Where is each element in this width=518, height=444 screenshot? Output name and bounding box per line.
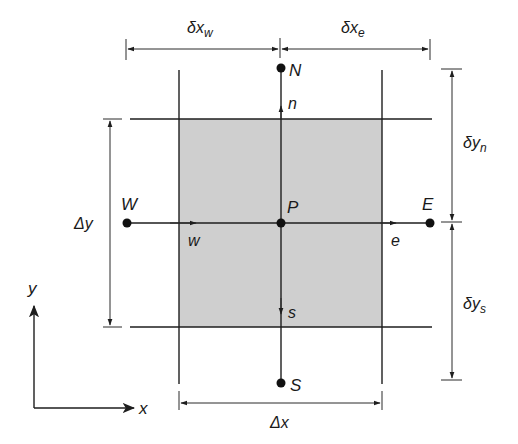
x-axis-label: x [138,399,148,418]
face-label-n: n [288,95,297,112]
face-label-w: w [188,232,201,249]
node-label-W: W [121,195,139,214]
node-S [277,379,286,388]
control-volume-diagram: N P S W E n s w e δxw δxe δyn δys Δy Δx … [0,0,518,444]
y-axis-label: y [27,279,38,298]
node-label-S: S [290,376,302,395]
node-label-N: N [289,61,302,80]
node-N [277,64,286,73]
dx-e-label: δxe [341,19,365,40]
node-E [426,219,435,228]
node-label-P: P [287,198,299,217]
node-W [123,219,132,228]
dy-n-label: δyn [463,134,487,155]
dy-s-label: δys [463,295,486,316]
face-label-e: e [391,232,400,249]
delta-y-label: Δy [73,215,94,232]
face-label-s: s [288,304,296,321]
dx-w-label: δxw [187,19,214,40]
node-label-E: E [422,195,434,214]
node-P [277,219,286,228]
delta-x-label: Δx [269,414,290,431]
